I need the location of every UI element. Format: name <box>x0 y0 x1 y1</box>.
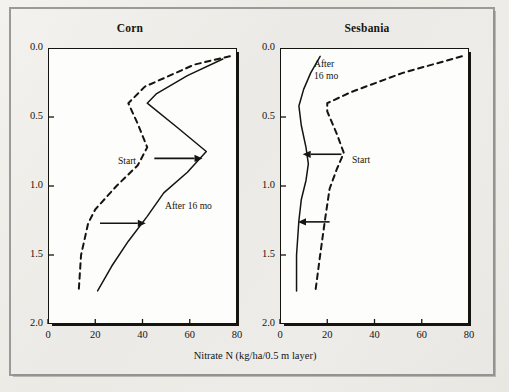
after-16-mo-label: 16 mo <box>314 70 364 81</box>
y-tick-label: 1.0 <box>16 179 43 190</box>
series-start <box>315 56 461 291</box>
panel-sesbania: Sesbania 0204060800.00.51.01.52.0After16… <box>252 18 482 338</box>
y-tick-label: 0.5 <box>248 110 275 121</box>
x-tick-label: 0 <box>34 329 62 340</box>
arrow-left <box>303 151 342 158</box>
x-tick-label: 40 <box>361 329 389 340</box>
panel-corn: Corn 0204060800.00.51.01.52.0StartAfter … <box>20 18 240 338</box>
y-tick-label: 1.0 <box>248 179 275 190</box>
series-after-16-mo <box>98 59 223 291</box>
x-tick-label: 80 <box>223 329 251 340</box>
y-tick-label: 2.0 <box>16 317 43 328</box>
sesbania-plot-svg <box>252 18 482 338</box>
y-tick-label: 1.5 <box>16 248 43 259</box>
y-tick-label: 2.0 <box>248 317 275 328</box>
x-tick-label: 60 <box>176 329 204 340</box>
x-tick-label: 20 <box>313 329 341 340</box>
x-axis-label: Nitrate N (kg/ha/0.5 m layer) <box>120 350 390 361</box>
y-tick-label: 1.5 <box>248 248 275 259</box>
x-tick-label: 80 <box>455 329 483 340</box>
x-tick-label: 0 <box>266 329 294 340</box>
start-label: Start <box>352 154 397 165</box>
corn-plot-svg <box>20 18 240 338</box>
arrow-right <box>100 220 146 227</box>
arrow-right <box>154 155 202 162</box>
series-after-16-mo <box>297 56 321 291</box>
y-tick-label: 0.5 <box>16 110 43 121</box>
series-start <box>79 56 230 291</box>
start-label: Start <box>96 155 136 166</box>
x-tick-label: 40 <box>129 329 157 340</box>
y-tick-label: 0.0 <box>16 41 43 52</box>
x-tick-label: 20 <box>81 329 109 340</box>
after-label: After <box>314 58 364 69</box>
figure-canvas: Corn 0204060800.00.51.01.52.0StartAfter … <box>0 0 509 392</box>
y-tick-label: 0.0 <box>248 41 275 52</box>
after-16-mo-label: After 16 mo <box>165 200 245 211</box>
x-tick-label: 60 <box>408 329 436 340</box>
